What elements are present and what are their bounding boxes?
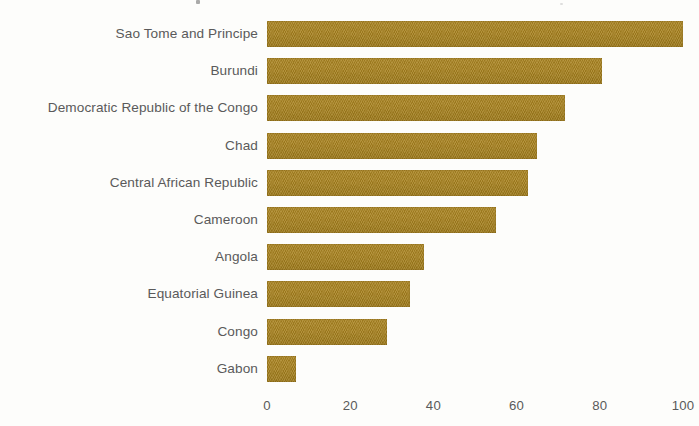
x-tick-label: 80 <box>592 396 607 416</box>
x-tick-label: 20 <box>343 396 358 416</box>
category-label: Central African Republic <box>0 170 258 196</box>
x-tick-label: 40 <box>426 396 441 416</box>
category-label: Chad <box>0 133 258 159</box>
category-label: Gabon <box>0 356 258 382</box>
category-label: Democratic Republic of the Congo <box>0 95 258 121</box>
bar-sao-tome-and-principe <box>267 21 683 47</box>
bar-congo <box>267 319 387 345</box>
bar-fill <box>267 58 602 84</box>
bar-fill <box>267 95 565 121</box>
x-tick-label: 60 <box>509 396 524 416</box>
bar-fill <box>267 207 496 233</box>
bar-democratic-republic-of-the-congo <box>267 95 565 121</box>
cropped-title-mark <box>196 0 200 4</box>
bar-burundi <box>267 58 602 84</box>
bar-fill <box>267 170 528 196</box>
category-label: Congo <box>0 319 258 345</box>
x-axis-tick-labels: 020406080100 <box>267 396 683 420</box>
bar-gabon <box>267 356 296 382</box>
bar-angola <box>267 244 424 270</box>
bar-equatorial-guinea <box>267 281 410 307</box>
category-label: Cameroon <box>0 207 258 233</box>
bar-chad <box>267 133 537 159</box>
category-label: Burundi <box>0 58 258 84</box>
bar-fill <box>267 356 296 382</box>
bar-fill <box>267 319 387 345</box>
bar-central-african-republic <box>267 170 528 196</box>
bar-fill <box>267 21 683 47</box>
plot-area <box>267 15 683 393</box>
bar-cameroon <box>267 207 496 233</box>
category-label: Sao Tome and Principe <box>0 21 258 47</box>
bar-fill <box>267 281 410 307</box>
category-axis-labels: Sao Tome and PrincipeBurundiDemocratic R… <box>0 15 258 393</box>
category-label: Angola <box>0 244 258 270</box>
bar-chart: Sao Tome and PrincipeBurundiDemocratic R… <box>0 0 699 426</box>
bar-fill <box>267 133 537 159</box>
bar-fill <box>267 244 424 270</box>
cropped-title-mark-secondary <box>560 3 563 5</box>
category-label: Equatorial Guinea <box>0 281 258 307</box>
x-tick-label: 100 <box>672 396 695 416</box>
x-tick-label: 0 <box>263 396 271 416</box>
